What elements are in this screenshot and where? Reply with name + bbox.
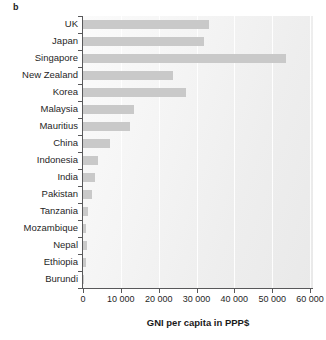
bar <box>83 71 173 80</box>
y-axis-tick <box>78 254 82 255</box>
y-axis-label-singapore: Singapore <box>2 52 78 63</box>
bar <box>83 54 286 63</box>
x-axis-label-30000: 30 000 <box>183 294 211 304</box>
y-axis-label-mozambique: Mozambique <box>2 222 78 233</box>
x-axis-label-50000: 50 000 <box>258 294 286 304</box>
y-axis-labels: UKJapanSingaporeNew ZealandKoreaMalaysia… <box>0 0 78 340</box>
bar <box>83 122 130 131</box>
y-axis-tick <box>78 169 82 170</box>
bar <box>83 88 186 97</box>
x-axis-tick <box>272 289 273 293</box>
x-axis-tick <box>121 289 122 293</box>
y-axis-label-new-zealand: New Zealand <box>2 69 78 80</box>
y-axis-tick <box>78 84 82 85</box>
y-axis-label-indonesia: Indonesia <box>2 154 78 165</box>
y-axis-tick <box>78 220 82 221</box>
y-axis-label-india: India <box>2 171 78 182</box>
bar <box>83 207 88 216</box>
bar <box>83 224 86 233</box>
y-axis-label-malaysia: Malaysia <box>2 103 78 114</box>
y-axis-tick <box>78 271 82 272</box>
bar <box>83 37 204 46</box>
bar <box>83 173 95 182</box>
x-axis-label-10000: 10 000 <box>107 294 135 304</box>
y-axis-label-korea: Korea <box>2 86 78 97</box>
y-axis-tick <box>78 118 82 119</box>
y-axis-label-uk: UK <box>2 18 78 29</box>
y-axis-label-china: China <box>2 137 78 148</box>
y-axis-tick <box>78 16 82 17</box>
y-axis-label-pakistan: Pakistan <box>2 188 78 199</box>
y-axis-tick <box>78 237 82 238</box>
y-axis-label-mauritius: Mauritius <box>2 120 78 131</box>
y-axis-label-ethiopia: Ethiopia <box>2 256 78 267</box>
y-axis-tick <box>78 67 82 68</box>
bar <box>83 258 86 267</box>
y-axis-tick <box>78 203 82 204</box>
x-axis-tick <box>83 289 84 293</box>
x-axis-title: GNI per capita in PPP$ <box>83 317 313 328</box>
y-axis-label-burundi: Burundi <box>2 273 78 284</box>
figure-panel-b: b UKJapanSingaporeNew ZealandKoreaMalays… <box>0 0 326 340</box>
y-axis-tick <box>78 33 82 34</box>
bar <box>83 20 209 29</box>
x-axis-label-0: 0 <box>80 294 85 304</box>
bar <box>83 241 87 250</box>
x-axis-tick <box>234 289 235 293</box>
x-axis-label-20000: 20 000 <box>145 294 173 304</box>
x-axis-label-40000: 40 000 <box>221 294 249 304</box>
y-axis-tick <box>78 135 82 136</box>
bar <box>83 156 98 165</box>
bar <box>83 105 134 114</box>
plot-area <box>83 16 313 288</box>
y-axis-tick <box>78 186 82 187</box>
y-axis-tick <box>78 152 82 153</box>
x-axis-tick <box>310 289 311 293</box>
y-axis-label-japan: Japan <box>2 35 78 46</box>
bar <box>83 139 110 148</box>
y-axis-label-nepal: Nepal <box>2 239 78 250</box>
x-axis-tick <box>197 289 198 293</box>
y-axis-tick <box>78 288 82 289</box>
y-axis-line <box>82 16 83 289</box>
x-axis-line <box>82 288 313 289</box>
bar <box>83 275 84 284</box>
x-axis-label-60000: 60 000 <box>296 294 324 304</box>
bar <box>83 190 92 199</box>
y-axis-tick <box>78 101 82 102</box>
y-axis-tick <box>78 50 82 51</box>
y-axis-label-tanzania: Tanzania <box>2 205 78 216</box>
gridline <box>310 16 311 288</box>
x-axis-tick <box>159 289 160 293</box>
